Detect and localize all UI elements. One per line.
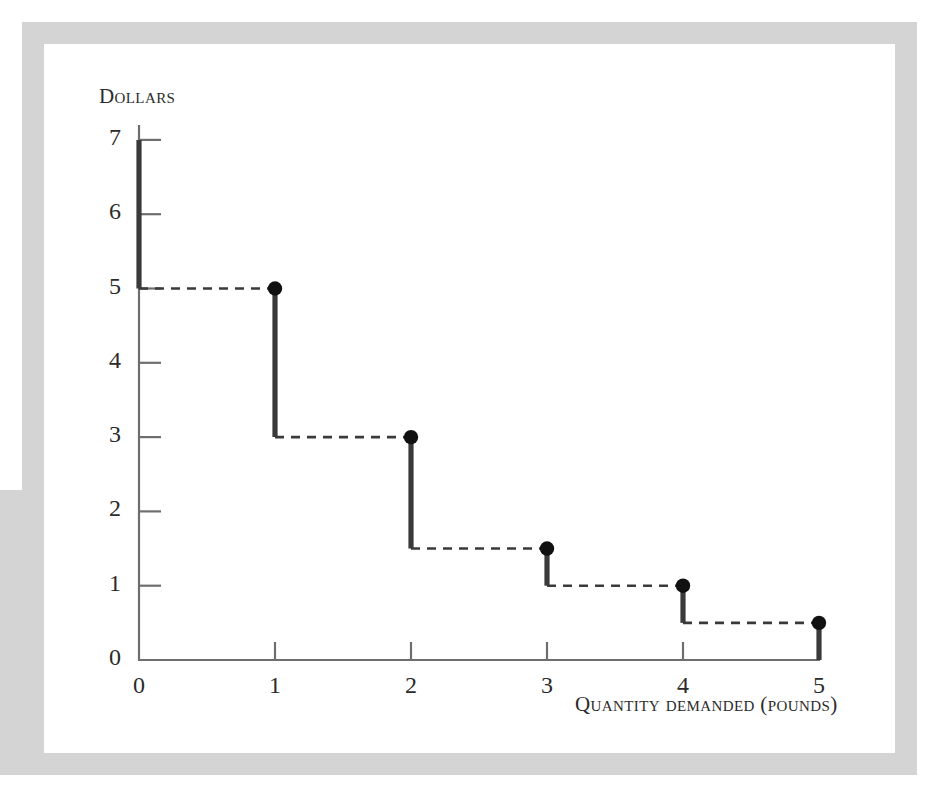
step-treads [139, 289, 819, 623]
y-axis-tick-label: 1 [91, 570, 121, 597]
data-point-marker [404, 430, 418, 444]
x-axis-tick-label: 5 [804, 672, 834, 699]
figure-page: Dollars Quantity demanded (pounds) 76543… [0, 0, 939, 786]
y-axis-tick-label: 2 [91, 495, 121, 522]
step-risers [139, 140, 819, 660]
x-axis-tick-label: 4 [668, 672, 698, 699]
data-point-marker [812, 616, 826, 630]
y-axis-tick-label: 3 [91, 421, 121, 448]
y-axis-tick-label: 7 [91, 124, 121, 151]
step-chart-plot [0, 0, 939, 786]
y-axis-caption: Dollars [99, 84, 175, 109]
x-axis-tick-label: 2 [396, 672, 426, 699]
y-axis-tick-label: 0 [91, 644, 121, 671]
y-axis-tick-label: 6 [91, 198, 121, 225]
axis-lines [139, 125, 820, 661]
x-axis-tick-label: 1 [260, 672, 290, 699]
x-axis-caption: Quantity demanded (pounds) [575, 692, 838, 717]
data-point-marker [676, 579, 690, 593]
y-axis-ticks [139, 140, 161, 586]
y-axis-tick-label: 4 [91, 347, 121, 374]
data-point-marker [268, 281, 282, 295]
x-axis-tick-label: 3 [532, 672, 562, 699]
x-axis-tick-label: 0 [124, 672, 154, 699]
x-axis-ticks [275, 642, 819, 660]
y-axis-tick-label: 5 [91, 273, 121, 300]
data-point-marker [540, 541, 554, 555]
